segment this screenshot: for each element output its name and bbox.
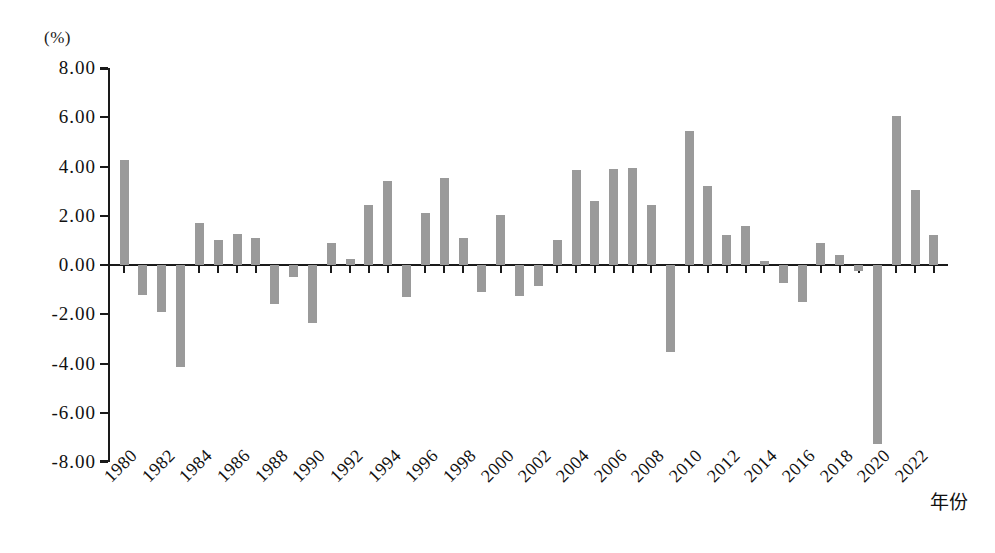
y-axis-tick — [100, 116, 108, 118]
bar — [911, 190, 920, 265]
y-axis-tick — [100, 461, 108, 463]
x-axis-tick — [745, 264, 747, 273]
x-axis-tick — [424, 264, 426, 273]
bar — [760, 261, 769, 265]
y-axis-tick-label: -4.00 — [51, 353, 96, 375]
x-axis-tick — [575, 264, 577, 273]
y-axis-tick-label: 0.00 — [59, 254, 96, 276]
bar — [628, 168, 637, 265]
x-axis-tick — [556, 264, 558, 273]
y-axis-tick-label: -8.00 — [51, 451, 96, 473]
bar — [892, 116, 901, 265]
bar — [873, 265, 882, 444]
y-axis-tick — [100, 67, 108, 69]
x-axis-tick — [763, 264, 765, 273]
bar — [176, 265, 185, 367]
bar — [459, 238, 468, 265]
y-axis-tick-label: 8.00 — [59, 57, 96, 79]
x-axis-tick — [650, 264, 652, 273]
bar — [609, 169, 618, 265]
bar — [816, 243, 825, 265]
bar — [798, 265, 807, 302]
x-axis-tick — [839, 264, 841, 273]
x-axis-tick — [443, 264, 445, 273]
bar — [346, 259, 355, 265]
bar — [440, 178, 449, 265]
x-axis-tick — [914, 264, 916, 273]
x-axis-tick — [198, 264, 200, 273]
bar — [214, 240, 223, 265]
bar — [722, 235, 731, 265]
chart-page: (%) 8.006.004.002.000.00-2.00-4.00-6.00-… — [0, 0, 995, 553]
y-axis-tick — [100, 264, 108, 266]
y-axis-tick-label: 4.00 — [59, 156, 96, 178]
y-axis-tick — [100, 166, 108, 168]
bar — [195, 223, 204, 265]
x-axis-tick — [594, 264, 596, 273]
y-axis-unit-label: (%) — [44, 28, 71, 48]
bar — [647, 205, 656, 265]
bar — [515, 265, 524, 296]
bar — [120, 160, 129, 265]
x-axis-tick — [500, 264, 502, 273]
plot-area: 8.006.004.002.000.00-2.00-4.00-6.00-8.00 — [108, 68, 948, 462]
bar — [289, 265, 298, 277]
bar — [308, 265, 317, 323]
bar — [929, 235, 938, 265]
bar — [779, 265, 788, 283]
x-axis-tick — [255, 264, 257, 273]
x-axis-tick — [462, 264, 464, 273]
bar — [477, 265, 486, 292]
x-axis-tick — [236, 264, 238, 273]
bar — [421, 213, 430, 265]
bar — [233, 234, 242, 265]
bar — [590, 201, 599, 265]
x-axis-tick — [349, 264, 351, 273]
x-axis-tick — [123, 264, 125, 273]
bar — [251, 238, 260, 265]
bar — [383, 181, 392, 265]
bar — [327, 243, 336, 265]
x-axis-title: 年份 — [930, 487, 968, 514]
bar — [270, 265, 279, 304]
bar — [703, 186, 712, 265]
bar — [685, 131, 694, 265]
bar — [138, 265, 147, 295]
bar — [835, 255, 844, 265]
x-axis-tick — [368, 264, 370, 273]
bar — [157, 265, 166, 312]
bar — [364, 205, 373, 265]
bar — [666, 265, 675, 352]
y-axis-tick-label: 2.00 — [59, 205, 96, 227]
bar — [854, 265, 863, 271]
y-axis-tick-label: -6.00 — [51, 402, 96, 424]
x-axis-tick — [820, 264, 822, 273]
y-axis-tick — [100, 412, 108, 414]
x-axis-tick — [707, 264, 709, 273]
y-axis-tick — [100, 215, 108, 217]
x-axis-tick — [688, 264, 690, 273]
bar — [534, 265, 543, 286]
bar — [553, 240, 562, 265]
x-axis-tick — [726, 264, 728, 273]
x-axis-tick — [217, 264, 219, 273]
x-axis-tick — [330, 264, 332, 273]
x-axis-tick — [895, 264, 897, 273]
x-axis-tick — [387, 264, 389, 273]
y-axis-tick — [100, 363, 108, 365]
x-axis-tick — [632, 264, 634, 273]
y-axis-tick-label: 6.00 — [59, 106, 96, 128]
x-axis-tick — [613, 264, 615, 273]
x-axis-tick — [933, 264, 935, 273]
bar — [402, 265, 411, 297]
y-axis-tick — [100, 313, 108, 315]
bar — [741, 226, 750, 265]
y-axis-tick-label: -2.00 — [51, 303, 96, 325]
bar — [572, 170, 581, 265]
bar — [496, 215, 505, 265]
